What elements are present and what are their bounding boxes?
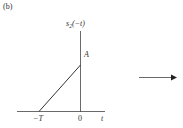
ramp-line bbox=[39, 65, 81, 112]
panel-label: (b) bbox=[3, 2, 13, 11]
signal-diagram: (b) s2(−t) A −T 0 t bbox=[0, 0, 183, 128]
y-axis-label: s2(−t) bbox=[66, 19, 85, 29]
right-arrow-icon bbox=[171, 75, 177, 81]
tick-neg-T: −T bbox=[33, 114, 43, 123]
peak-label: A bbox=[83, 50, 89, 59]
tick-zero: 0 bbox=[78, 114, 82, 123]
x-axis-label: t bbox=[101, 114, 104, 123]
